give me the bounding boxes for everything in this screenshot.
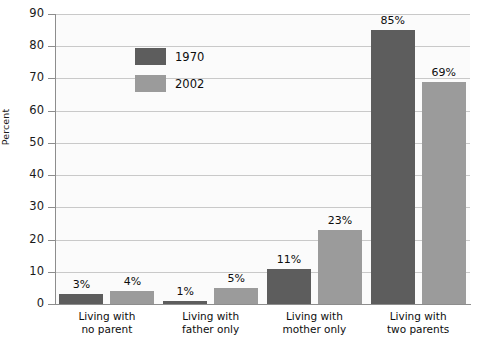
bar-2002-1[interactable] xyxy=(214,288,258,304)
bar-chart: Percent 9080706050403020100 3%4%1%5%11%2… xyxy=(0,0,488,345)
y-tick-mark xyxy=(48,304,55,305)
bar-1970-1[interactable] xyxy=(163,301,207,304)
legend-label-1970: 1970 xyxy=(175,50,204,64)
x-category-label: Living with no parent xyxy=(55,310,159,336)
y-tick-mark xyxy=(48,175,55,176)
x-category-label: Living with mother only xyxy=(263,310,367,336)
y-tick-label: 80 xyxy=(2,38,44,52)
bar-value-label: 5% xyxy=(208,272,264,285)
legend-item-1970[interactable]: 1970 xyxy=(135,48,204,65)
legend-swatch-1970 xyxy=(135,48,166,65)
x-category-label: Living with two parents xyxy=(366,310,470,336)
bar-value-label: 3% xyxy=(53,278,109,291)
y-tick-label: 60 xyxy=(2,103,44,117)
y-tick-label: 50 xyxy=(2,135,44,149)
y-tick-mark xyxy=(48,78,55,79)
y-tick-label: 20 xyxy=(2,232,44,246)
y-tick-mark xyxy=(48,111,55,112)
bar-value-label: 4% xyxy=(104,275,160,288)
x-axis-line xyxy=(55,304,471,305)
legend: 1970 2002 xyxy=(135,48,204,102)
x-category-label: Living with father only xyxy=(159,310,263,336)
bar-value-label: 85% xyxy=(365,14,421,27)
y-tick-label: 40 xyxy=(2,167,44,181)
bar-1970-3[interactable] xyxy=(371,30,415,304)
bar-2002-2[interactable] xyxy=(318,230,362,304)
bar-1970-0[interactable] xyxy=(59,294,103,304)
bar-value-label: 1% xyxy=(157,285,213,298)
y-tick-mark xyxy=(48,272,55,273)
y-tick-label: 70 xyxy=(2,70,44,84)
bar-2002-0[interactable] xyxy=(110,291,154,304)
y-tick-mark xyxy=(48,14,55,15)
y-tick-label: 30 xyxy=(2,199,44,213)
legend-item-2002[interactable]: 2002 xyxy=(135,75,204,92)
bar-value-label: 69% xyxy=(416,66,472,79)
legend-swatch-2002 xyxy=(135,75,166,92)
y-tick-mark xyxy=(48,143,55,144)
y-tick-mark xyxy=(48,46,55,47)
legend-label-2002: 2002 xyxy=(175,77,204,91)
y-tick-label: 90 xyxy=(2,6,44,20)
y-tick-label: 10 xyxy=(2,264,44,278)
bar-value-label: 23% xyxy=(312,214,368,227)
y-tick-mark xyxy=(48,240,55,241)
bar-value-label: 11% xyxy=(261,253,317,266)
bar-1970-2[interactable] xyxy=(267,269,311,304)
y-tick-label: 0 xyxy=(2,296,44,310)
bar-2002-3[interactable] xyxy=(422,82,466,304)
y-tick-mark xyxy=(48,207,55,208)
